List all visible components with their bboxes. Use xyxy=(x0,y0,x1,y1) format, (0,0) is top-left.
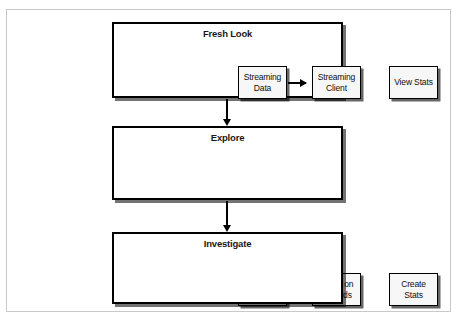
stage-investigate: Investigate Form a theory Investigate Re… xyxy=(112,232,343,304)
workflow-diagram: Fresh Look Streaming Data Streaming Clie… xyxy=(0,0,458,323)
arrow-explore-to-investigate-icon xyxy=(226,201,228,225)
node-create-stats[interactable]: Create Stats xyxy=(389,273,438,306)
node-streaming-client[interactable]: Streaming Client xyxy=(312,66,361,99)
arrow-streaming-data-to-streaming-client-icon xyxy=(288,82,306,84)
stage-title-explore: Explore xyxy=(114,132,341,143)
stage-title-investigate: Investigate xyxy=(114,238,341,249)
node-streaming-data[interactable]: Streaming Data xyxy=(238,66,287,99)
arrow-fresh-look-to-explore-icon xyxy=(226,99,228,119)
stage-title-fresh-look: Fresh Look xyxy=(114,28,341,39)
node-view-stats[interactable]: View Stats xyxy=(389,66,438,99)
stage-fresh-look: Fresh Look Streaming Data Streaming Clie… xyxy=(112,22,343,98)
stage-explore: Explore Focus on Fields Focus on Records… xyxy=(112,126,343,200)
